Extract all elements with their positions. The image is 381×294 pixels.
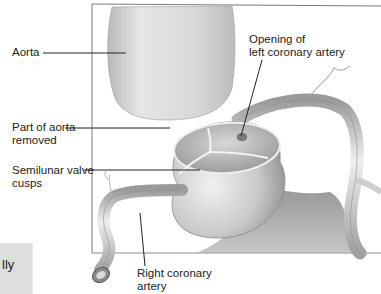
label-semilunar-valve-cusps-line2: cusps [12, 177, 42, 190]
right-coronary-vessel [100, 190, 182, 270]
label-semilunar-valve-cusps-line1: Semilunar valve [12, 164, 94, 177]
label-aorta: Aorta [12, 46, 40, 59]
side-note-text-fragment: lly [2, 257, 14, 272]
label-opening-left-coronary-line2: left coronary artery [249, 46, 345, 59]
aorta-shape [108, 6, 235, 120]
small-branch-top [310, 66, 350, 96]
label-right-coronary-line2: artery [137, 280, 166, 293]
label-right-coronary-line1: Right coronary [137, 267, 212, 280]
label-part-of-aorta-removed-line1: Part of aorta [12, 121, 75, 134]
label-opening-left-coronary-line1: Opening of [249, 33, 305, 46]
label-part-of-aorta-removed-line2: removed [12, 134, 57, 147]
